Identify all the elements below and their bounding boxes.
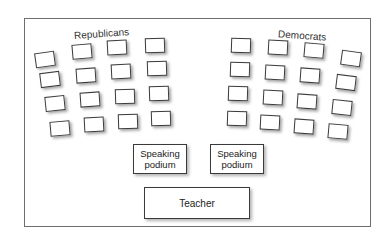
student-desk — [147, 61, 168, 77]
student-desk — [297, 93, 318, 109]
student-desk — [231, 38, 252, 54]
student-desk — [145, 38, 166, 54]
student-desk — [228, 86, 249, 102]
student-desk — [76, 67, 97, 83]
student-desk — [268, 39, 289, 55]
student-desk — [84, 116, 105, 132]
student-desk — [294, 118, 315, 134]
student-desk — [340, 50, 362, 68]
student-desk — [107, 39, 128, 55]
student-desk — [265, 64, 286, 80]
student-desk — [118, 114, 139, 130]
podium-label-line2: podium — [140, 159, 180, 170]
student-desk — [335, 74, 357, 91]
student-desk — [149, 86, 170, 102]
student-desk — [303, 42, 324, 59]
student-desk — [49, 120, 70, 137]
student-desk — [80, 91, 101, 107]
podium-label-line1: Speaking — [217, 148, 257, 159]
student-desk — [115, 89, 136, 105]
podium-label-line1: Speaking — [140, 148, 180, 159]
student-desk — [71, 43, 92, 60]
student-desk — [331, 99, 352, 116]
student-desk — [227, 111, 248, 127]
podium-label-line2: podium — [217, 159, 257, 170]
student-desk — [300, 67, 321, 83]
teacher-desk: Teacher — [144, 187, 250, 219]
student-desk — [263, 89, 284, 105]
student-desk — [44, 95, 65, 112]
speaking-podium-right: Speaking podium — [210, 144, 264, 174]
student-desk — [34, 51, 56, 69]
student-desk — [230, 62, 251, 78]
student-desk — [151, 111, 172, 127]
speaking-podium-left: Speaking podium — [133, 144, 187, 174]
student-desk — [260, 114, 281, 130]
student-desk — [39, 71, 61, 88]
student-desk — [327, 123, 348, 140]
student-desk — [111, 63, 132, 79]
